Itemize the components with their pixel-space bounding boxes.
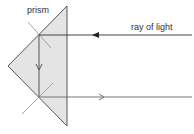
diagram-drawing — [0, 0, 194, 134]
prism-diagram: prism ray of light — [0, 0, 194, 134]
prism-label: prism — [27, 6, 49, 15]
arrow-left-icon — [92, 32, 99, 38]
ray-of-light-label: ray of light — [131, 23, 173, 32]
